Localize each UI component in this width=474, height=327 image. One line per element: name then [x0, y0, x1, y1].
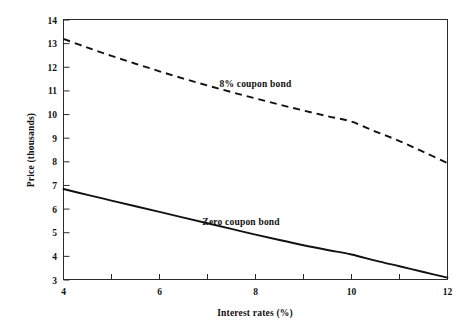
y-tick-label: 14: [48, 16, 58, 26]
y-tick-label: 11: [48, 86, 57, 96]
series-line-zero-coupon-bond: [64, 189, 448, 278]
y-tick-label: 7: [52, 181, 57, 191]
y-tick-label: 6: [52, 205, 57, 215]
x-axis-tick-labels: 4 6 8 10 12: [61, 287, 452, 297]
y-tick-label: 13: [48, 39, 58, 49]
x-axis-title: Interest rates (%): [217, 308, 293, 319]
annotation-8pct-coupon-bond: 8% coupon bond: [220, 79, 292, 89]
x-tick-label: 4: [61, 287, 66, 297]
x-tick-label: 10: [347, 287, 357, 297]
annotation-zero-coupon-bond: Zero coupon bond: [202, 217, 280, 227]
y-axis-tick-labels: 14 13 12 11 10 9 8 7 6 5 4 3: [48, 16, 58, 286]
y-tick-label: 5: [52, 228, 57, 238]
y-tick-label: 4: [52, 252, 57, 262]
x-tick-label: 6: [157, 287, 162, 297]
series-line-8pct-coupon-bond: [64, 39, 448, 163]
y-tick-label: 8: [52, 157, 57, 167]
bond-price-chart: 14 13 12 11 10 9 8 7 6 5 4 3 4 6 8 10 12…: [0, 0, 474, 327]
y-axis-ticks: [64, 20, 70, 280]
y-axis-title: Price (thousands): [26, 113, 37, 187]
y-tick-label: 10: [48, 110, 58, 120]
y-tick-label: 3: [52, 276, 57, 286]
x-tick-label: 8: [253, 287, 258, 297]
y-tick-label: 12: [48, 63, 58, 73]
x-tick-label: 12: [443, 287, 453, 297]
y-tick-label: 9: [52, 134, 57, 144]
